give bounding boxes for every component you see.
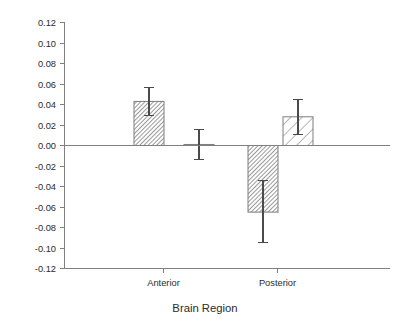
y-tick-label: -0.04	[35, 182, 56, 192]
y-tick-label: -0.08	[35, 223, 56, 233]
bar-chart: 0.12 0.10 0.08 0.06 0.04 0.02 0.00 -0.02…	[0, 0, 405, 326]
x-tick-label-anterior: Anterior	[147, 278, 180, 288]
y-tick-label: -0.06	[35, 203, 56, 213]
y-tick-label: 0.02	[38, 121, 56, 131]
chart-container: 0.12 0.10 0.08 0.06 0.04 0.02 0.00 -0.02…	[0, 0, 405, 326]
y-tick-label: 0.06	[38, 80, 56, 90]
x-tick-label-posterior: Posterior	[259, 278, 296, 288]
y-tick-label: 0.00	[38, 141, 56, 151]
y-tick-label: 0.12	[38, 18, 56, 28]
chart-background	[0, 0, 405, 326]
y-tick-label: -0.02	[35, 162, 56, 172]
y-tick-label: 0.10	[38, 39, 56, 49]
y-tick-label: 0.04	[38, 100, 56, 110]
x-axis-title: Brain Region	[172, 302, 237, 314]
y-tick-label: -0.12	[35, 264, 56, 274]
y-tick-label: 0.08	[38, 59, 56, 69]
y-tick-label: -0.10	[35, 244, 56, 254]
